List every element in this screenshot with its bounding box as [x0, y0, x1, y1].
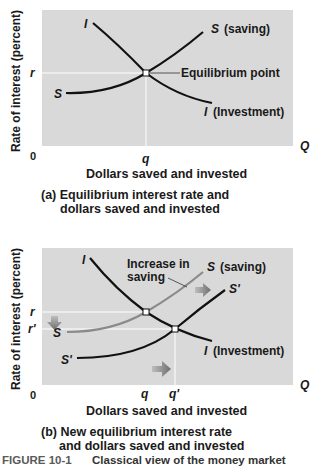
equilibrium-label: Equilibrium point	[181, 66, 280, 80]
x-axis-title-b: Dollars saved and invested	[86, 404, 247, 418]
curve-s-label: S	[211, 22, 219, 36]
curve-s-name: (saving)	[224, 22, 270, 36]
panel-a: I S (saving) Equilibrium point S I (Inve…	[9, 10, 310, 216]
new-equilibrium-marker	[172, 326, 178, 332]
q-prime-axis-label: q'	[169, 387, 180, 401]
curve-i-name-b: (Investment)	[213, 344, 284, 358]
r-axis-label-b: r	[30, 305, 36, 319]
caption-b-line2: and dollars saved and invested	[59, 439, 244, 453]
curve-s-label-b: S	[207, 260, 215, 274]
x-end-label-b: Q	[300, 378, 310, 392]
figure-title: Classical view of the money market	[92, 454, 286, 466]
r-axis-label: r	[30, 66, 36, 80]
caption-b-line1: (b) New equilibrium interest rate	[41, 425, 232, 439]
figure-caption: FIGURE 10-1 Classical view of the money …	[2, 454, 286, 466]
q-axis-label: q	[142, 152, 150, 166]
x-axis-title: Dollars saved and invested	[86, 167, 247, 181]
curve-s-name-b: (saving)	[220, 260, 266, 274]
y-axis-title-b: Rate of interest (percent)	[9, 248, 23, 390]
panel-b: I Increase in saving S (saving) S' S S' …	[9, 248, 310, 453]
figure-number: FIGURE 10-1	[2, 454, 72, 466]
origin-label: 0	[30, 150, 36, 162]
curve-s-prime-label-left: S'	[61, 353, 73, 367]
x-end-label: Q	[300, 139, 310, 153]
equilibrium-point-marker	[143, 70, 149, 76]
origin-label-b: 0	[30, 389, 36, 401]
y-axis-title: Rate of interest (percent)	[9, 10, 23, 152]
q-axis-label-b: q	[141, 387, 149, 401]
caption-a-line2: dollars saved and invested	[60, 202, 220, 216]
curve-s-prime-label-top: S'	[229, 282, 241, 296]
caption-a-line1: (a) Equilibrium interest rate and	[41, 188, 229, 202]
r-prime-axis-label: r'	[28, 322, 37, 336]
annotation-line1: Increase in	[127, 257, 190, 271]
curve-i-name: (Investment)	[213, 105, 284, 119]
curve-s-label-left-b: S	[53, 326, 61, 340]
annotation-line2: saving	[127, 270, 165, 284]
old-equilibrium-marker	[143, 309, 149, 315]
figure-canvas: I S (saving) Equilibrium point S I (Inve…	[0, 0, 310, 468]
curve-s-label-left: S	[54, 87, 62, 101]
